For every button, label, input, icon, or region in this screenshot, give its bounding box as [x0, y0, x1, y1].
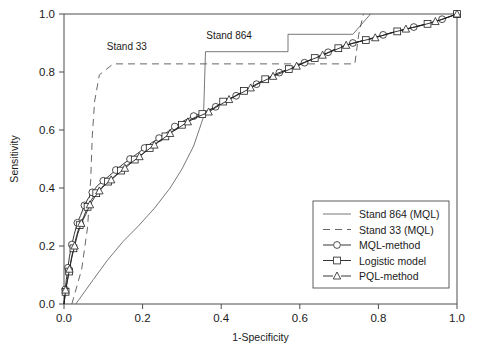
circle-marker [334, 242, 341, 249]
y-axis-title: Sensitivity [8, 135, 20, 183]
x-tick-label: 1.0 [449, 312, 465, 324]
legend-label: PQL-method [359, 270, 419, 282]
x-tick-label: 0.2 [135, 312, 151, 324]
annotation-label: Stand 864 [206, 30, 252, 41]
roc-chart-svg: 0.00.20.40.60.81.0 0.00.20.40.60.81.0 St… [0, 0, 487, 358]
legend-label: MQL-method [359, 239, 420, 251]
annotation-layer: Stand 33Stand 864 [107, 30, 252, 53]
legend-label: Stand 33 (MQL) [359, 224, 434, 236]
x-axis-title: 1-Specificity [232, 331, 289, 343]
triangle-marker [293, 62, 300, 69]
annotation-label: Stand 33 [107, 41, 147, 52]
y-tick-label: 0.6 [39, 124, 55, 136]
x-tick-label: 0.4 [213, 312, 230, 324]
x-tick-label: 0.6 [292, 312, 308, 324]
roc-chart-figure: 0.00.20.40.60.81.0 0.00.20.40.60.81.0 St… [0, 0, 487, 358]
y-tick-label: 0.0 [39, 298, 55, 310]
y-tick-label: 0.8 [39, 66, 55, 78]
legend-label: Stand 864 (MQL) [359, 208, 440, 220]
chart-legend[interactable]: Stand 864 (MQL)Stand 33 (MQL)MQL-methodL… [313, 201, 449, 288]
x-tick-label: 0.0 [56, 312, 72, 324]
y-tick-label: 0.4 [39, 182, 56, 194]
legend-label: Logistic model [359, 255, 426, 267]
annotation-stand-864: Stand 864 [206, 30, 252, 41]
y-tick-label: 1.0 [39, 8, 55, 20]
square-marker [334, 257, 341, 264]
annotation-stand-33: Stand 33 [107, 41, 147, 52]
x-tick-label: 0.8 [370, 312, 386, 324]
y-tick-label: 0.2 [39, 240, 55, 252]
